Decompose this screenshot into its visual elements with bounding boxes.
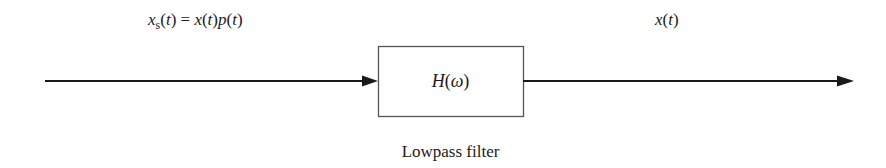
label-part: x — [194, 10, 202, 29]
transfer-function-label: H(ω) — [378, 46, 523, 116]
label-part: ) — [237, 10, 243, 29]
label-part: x — [148, 10, 156, 29]
label-part: x — [655, 10, 663, 29]
input-signal-label: xs(t) = x(t)p(t) — [148, 10, 243, 30]
block-caption: Lowpass filter — [378, 142, 523, 162]
label-part: ω — [451, 71, 464, 91]
label-part: ) = — [171, 10, 195, 29]
label-part: p — [218, 10, 227, 29]
label-part: ) — [463, 71, 469, 91]
label-part: H — [432, 71, 445, 91]
output-signal-label: x(t) — [655, 10, 679, 30]
label-part: s — [156, 18, 161, 32]
output-arrowhead-icon — [837, 76, 854, 87]
input-arrowhead-icon — [362, 76, 378, 87]
label-part: ) — [673, 10, 679, 29]
